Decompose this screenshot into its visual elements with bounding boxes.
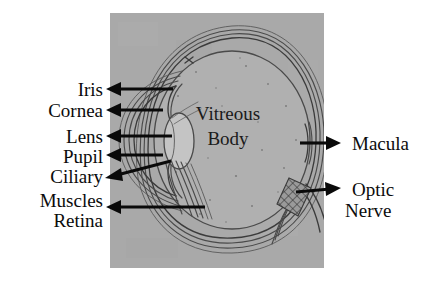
right-labels: Macula Optic Nerve — [345, 133, 410, 221]
label-retina: Retina — [53, 210, 103, 231]
label-iris: Iris — [78, 79, 103, 100]
label-macula: Macula — [352, 133, 410, 154]
label-cornea: Cornea — [48, 100, 103, 121]
label-ciliary: Ciliary — [50, 166, 103, 187]
label-muscles: Muscles — [40, 190, 103, 211]
label-optic: Optic — [352, 179, 394, 200]
label-body: Body — [207, 128, 249, 149]
label-pupil: Pupil — [63, 146, 103, 167]
label-nerve: Nerve — [345, 200, 391, 221]
eye-anatomy-figure: Iris Cornea Lens Pupil Ciliary Muscles R… — [0, 0, 435, 284]
left-labels: Iris Cornea Lens Pupil Ciliary Muscles R… — [40, 79, 104, 231]
eye-diagram-svg: Iris Cornea Lens Pupil Ciliary Muscles R… — [0, 0, 435, 284]
label-lens: Lens — [66, 126, 103, 147]
label-vitreous: Vitreous — [196, 103, 260, 124]
